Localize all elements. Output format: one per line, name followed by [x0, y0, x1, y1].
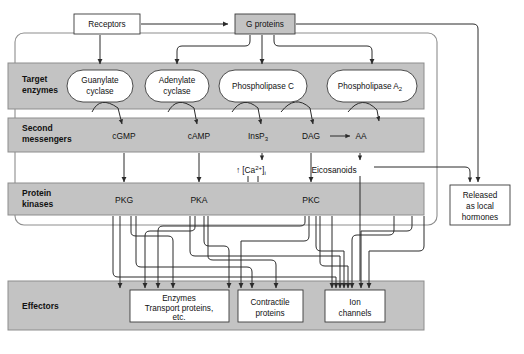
- node-enzymes-line3: etc.: [172, 313, 185, 322]
- node-released-line3: hormones: [462, 213, 498, 222]
- node-g-proteins-label: G proteins: [246, 20, 284, 29]
- band-label-second-messengers-line2: messengers: [22, 134, 72, 144]
- wire-right-bus-to-ion-a: [352, 216, 394, 288]
- band-label-target-enzymes-line1: Target: [22, 74, 48, 84]
- node-enzymes-line1: Enzymes: [162, 294, 196, 303]
- node-cgmp: cGMP: [112, 131, 136, 141]
- node-contractile-line1: Contractile: [250, 298, 290, 307]
- node-pka: PKA: [190, 195, 207, 205]
- node-adenylate-cyclase-line2: cyclase: [163, 87, 191, 96]
- wire-eicosanoids-to-released: [374, 167, 470, 182]
- node-adenylate-cyclase[interactable]: [145, 70, 209, 102]
- node-camp: cAMP: [188, 131, 211, 141]
- band-label-second-messengers-line1: Second: [22, 123, 53, 133]
- node-receptors-label: Receptors: [88, 20, 125, 29]
- node-pkg: PKG: [115, 195, 133, 205]
- band-label-protein-kinases-line1: Protein: [22, 188, 51, 198]
- node-phospholipase-a2-label: Phospholipase A2: [338, 82, 403, 92]
- annotation-eicosanoids: Eicosanoids: [311, 165, 356, 175]
- node-dag: DAG: [302, 131, 320, 141]
- band-label-protein-kinases-line2: kinases: [22, 199, 53, 209]
- band-label-target-enzymes-line2: enzymes: [22, 85, 58, 95]
- node-ion-channels-line2: channels: [339, 309, 372, 318]
- node-guanylate-cyclase-line2: cyclase: [86, 87, 114, 96]
- wire-right-bus-to-ion-c: [369, 216, 424, 288]
- diagram-canvas: Target enzymes Second messengers Protein…: [0, 0, 524, 354]
- node-pkc: PKC: [302, 195, 320, 205]
- node-adenylate-cyclase-line1: Adenylate: [159, 76, 196, 85]
- node-enzymes-line2: Transport proteins,: [145, 304, 213, 313]
- node-phospholipase-c-label: Phospholipase C: [232, 82, 294, 91]
- band-label-effectors: Effectors: [22, 301, 59, 311]
- band-protein-kinases: [8, 183, 424, 215]
- node-guanylate-cyclase-line1: Guanylate: [81, 76, 119, 85]
- node-aa: AA: [355, 131, 367, 141]
- annotation-calcium: ↑[Ca2+]i: [236, 165, 266, 176]
- wire-gproteins-to-adenylate: [177, 35, 250, 64]
- wire-pkg-to-ion-channels: [113, 216, 336, 288]
- node-contractile-line2: proteins: [255, 309, 284, 318]
- node-released-line2: as local: [466, 202, 494, 211]
- signalling-pathway-diagram: Target enzymes Second messengers Protein…: [0, 0, 524, 354]
- node-ion-channels-line1: Ion: [349, 298, 361, 307]
- node-released-line1: Released: [463, 191, 498, 200]
- wire-gproteins-to-phospholipase-a2: [274, 35, 372, 64]
- node-guanylate-cyclase[interactable]: [67, 70, 133, 102]
